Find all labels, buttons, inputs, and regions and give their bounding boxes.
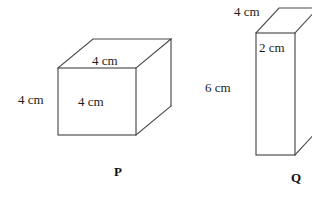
cube-p-front-label: 4 cm — [78, 95, 104, 108]
cuboid-q-left-label: 6 cm — [205, 81, 231, 94]
cube-p-top-label: 4 cm — [92, 54, 118, 67]
solids-diagram — [0, 0, 312, 198]
figure-canvas: 4 cm 4 cm 4 cm P 4 cm 2 cm 6 cm Q — [0, 0, 312, 198]
shape-q-name: Q — [291, 171, 301, 184]
shape-p-name: P — [114, 165, 122, 178]
cube-p-left-label: 4 cm — [18, 93, 44, 106]
cuboid-q — [256, 8, 312, 155]
cuboid-q-top-label: 4 cm — [234, 5, 260, 18]
cuboid-q-depth-label: 2 cm — [259, 41, 285, 54]
